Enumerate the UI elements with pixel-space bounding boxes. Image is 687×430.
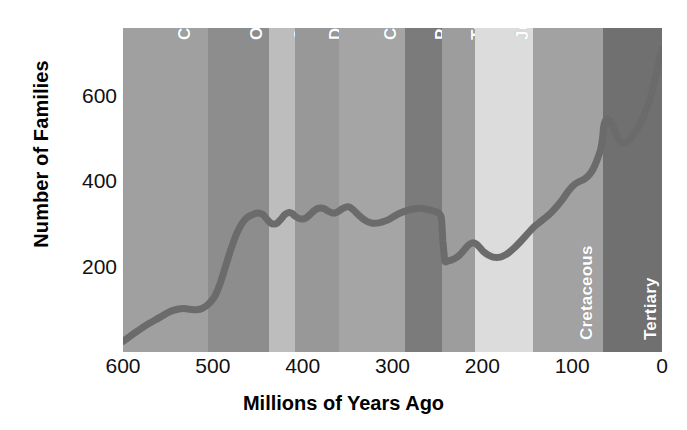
diversity-curve	[123, 28, 662, 352]
x-axis-tick-labels: 6005004003002001000	[0, 354, 687, 386]
curve-path	[123, 49, 662, 341]
x-tick-200: 200	[447, 354, 517, 377]
x-tick-600: 600	[88, 354, 158, 377]
x-tick-0: 0	[627, 354, 687, 377]
x-tick-100: 100	[537, 354, 607, 377]
plot-area: CambrianOrdovicianSilurianDevonianCarbon…	[123, 28, 662, 352]
y-tick-200: 200	[61, 256, 117, 277]
y-tick-600: 600	[61, 85, 117, 106]
x-tick-400: 400	[268, 354, 338, 377]
x-tick-500: 500	[178, 354, 248, 377]
y-tick-400: 400	[61, 170, 117, 191]
chart-figure: Number of Families 200400600 CambrianOrd…	[0, 0, 687, 430]
x-axis-title: Millions of Years Ago	[0, 392, 687, 415]
x-tick-300: 300	[358, 354, 428, 377]
y-axis-title: Number of Families	[30, 24, 58, 284]
